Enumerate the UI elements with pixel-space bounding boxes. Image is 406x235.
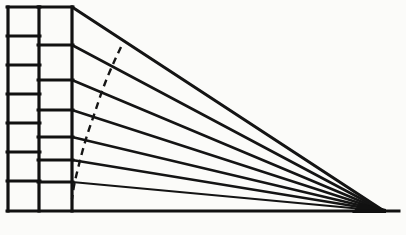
- perspective-diagram-canvas: [0, 0, 406, 235]
- diagram-background: [0, 0, 406, 235]
- figure-svg: [0, 0, 406, 235]
